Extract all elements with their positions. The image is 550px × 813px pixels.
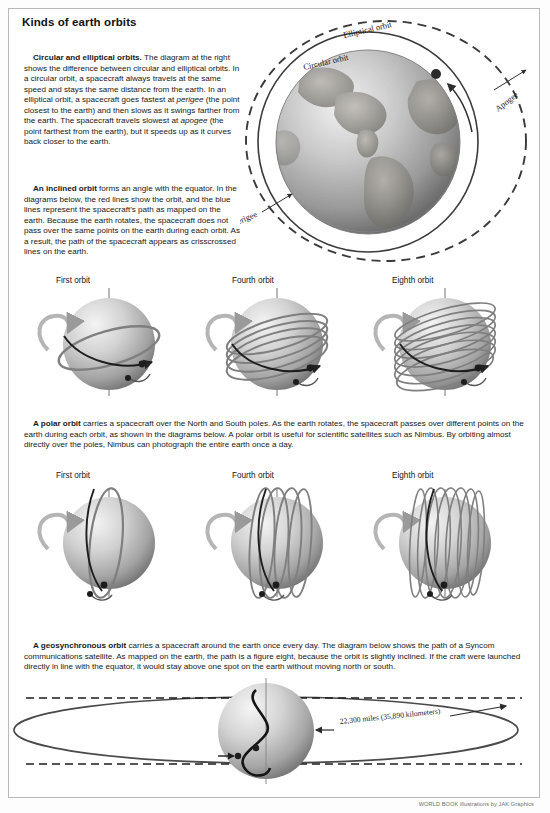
polar-label-fourth-orbit: Fourth orbit [232, 471, 274, 480]
inclined-globe-first [39, 288, 163, 396]
paragraph-circular-em-perigee: perigee [177, 95, 204, 104]
distance-arrow-right [450, 706, 506, 716]
polar-label-first-orbit: First orbit [56, 471, 90, 480]
inclined-globe-eighth [375, 288, 499, 399]
paragraph-circular-lead: Circular and elliptical orbits. [33, 53, 142, 62]
paragraph-geo-lead: A geosynchronous orbit [33, 641, 126, 650]
earth-orbits-diagram: Elliptical orbit Circular orbit Apogee P… [240, 12, 540, 272]
polar-label-eighth-orbit: Eighth orbit [392, 471, 433, 480]
illustration-credit: WORLD BOOK illustrations by JAK Graphics [419, 801, 534, 807]
label-perigee: Perigee [240, 209, 259, 228]
geosynchronous-diagram: 22,300 miles (35,890 kilometers) [10, 676, 538, 784]
paragraph-polar-text: carries a spacecraft over the North and … [24, 419, 526, 449]
page-title: Kinds of earth orbits [22, 16, 137, 28]
paragraph-circular-em-apogee: apogee [180, 116, 207, 125]
inclined-orbit-globes [24, 286, 530, 406]
polar-globe-first [39, 487, 155, 600]
polar-globe-eighth [375, 487, 491, 600]
polar-orbit-globes [24, 481, 530, 606]
paragraph-inclined-orbit: An inclined orbit forms an angle with th… [24, 174, 242, 268]
paragraph-inclined-lead: An inclined orbit [33, 184, 97, 193]
inclined-label-eighth-orbit: Eighth orbit [392, 276, 433, 285]
label-geo-distance: 22,300 miles (35,890 kilometers) [339, 706, 441, 726]
paragraph-circular-elliptical: Circular and elliptical orbits. The diag… [24, 43, 242, 158]
inclined-label-first-orbit: First orbit [56, 276, 90, 285]
paragraph-inclined-text: forms an angle with the equator. In the … [24, 184, 242, 256]
page-root: Kinds of earth orbits [0, 0, 550, 813]
paragraph-polar-lead: A polar orbit [33, 419, 81, 428]
polar-globe-fourth [207, 487, 323, 600]
inclined-globe-fourth [207, 288, 331, 396]
label-apogee: Apogee [493, 89, 520, 113]
apogee-leader-line [494, 70, 526, 90]
perigee-leader-line [262, 194, 292, 212]
inclined-label-fourth-orbit: Fourth orbit [232, 276, 274, 285]
label-elliptical-orbit: Elliptical orbit [342, 19, 393, 40]
paragraph-polar-orbit: A polar orbit carries a spacecraft over … [24, 409, 524, 461]
satellite-dot [431, 69, 441, 79]
